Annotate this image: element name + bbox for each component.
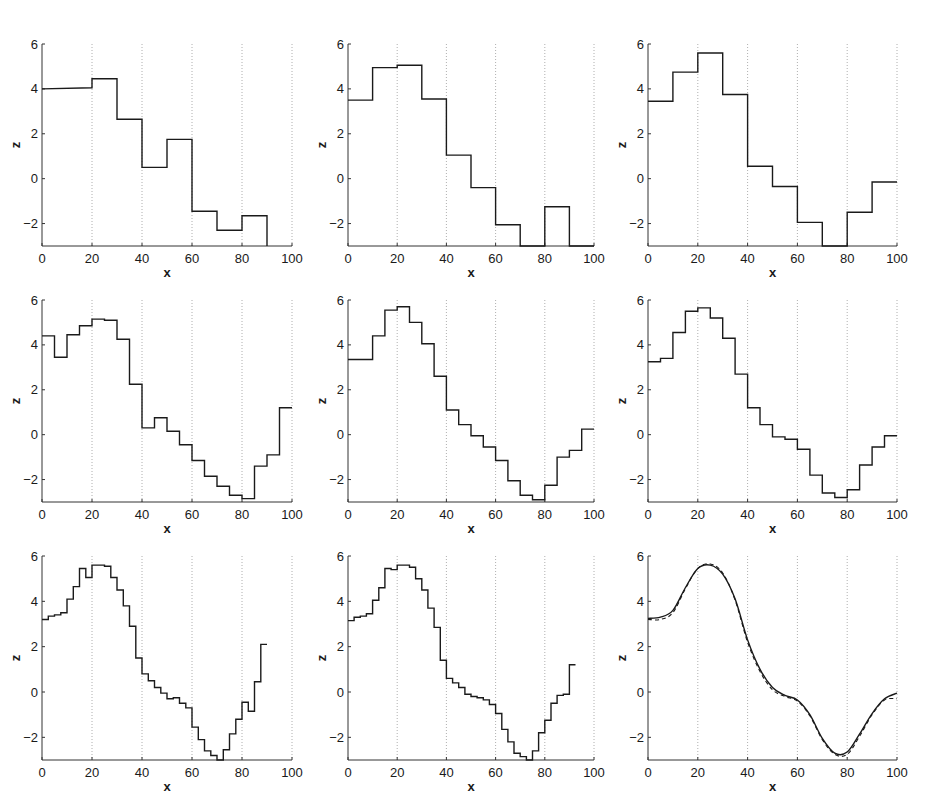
x-tick-label: 60 [488, 507, 502, 522]
chart-panel-7: 020406080100−20246xz [8, 549, 303, 795]
y-tick-label: 2 [337, 639, 344, 654]
x-axis-label: x [769, 779, 777, 794]
chart-panel-5: 020406080100−20246xz [314, 293, 605, 537]
y-axis-label: z [8, 397, 23, 404]
y-tick-label: 0 [337, 427, 344, 442]
series-line-approximation [348, 65, 594, 246]
y-tick-label: 6 [637, 549, 644, 564]
y-tick-label: 6 [31, 293, 38, 308]
y-tick-label: −2 [329, 730, 344, 745]
chart-panel-3: 020406080100−20246xz [614, 37, 908, 281]
x-axis-label: x [163, 265, 171, 280]
x-axis-label: x [163, 521, 171, 536]
chart-panel-6: 020406080100−20246xz [614, 293, 908, 537]
y-tick-label: 0 [637, 685, 644, 700]
x-tick-label: 100 [886, 507, 908, 522]
x-tick-label: 60 [790, 765, 804, 780]
x-tick-label: 40 [135, 251, 149, 266]
x-tick-label: 80 [235, 251, 249, 266]
series-line-approximation [348, 307, 594, 500]
x-tick-label: 80 [840, 507, 854, 522]
x-tick-label: 20 [691, 251, 705, 266]
y-tick-label: −2 [629, 730, 644, 745]
x-tick-label: 0 [344, 251, 351, 266]
x-tick-label: 40 [439, 765, 453, 780]
y-tick-label: 6 [31, 37, 38, 52]
series-line-true-function [648, 564, 897, 757]
x-tick-label: 40 [439, 251, 453, 266]
y-tick-label: −2 [629, 472, 644, 487]
y-tick-label: −2 [23, 730, 38, 745]
y-tick-label: 0 [337, 685, 344, 700]
series-line-approximation [648, 308, 897, 498]
y-axis-label: z [8, 654, 23, 661]
series-line-approximation [648, 565, 897, 755]
x-tick-label: 80 [538, 765, 552, 780]
x-tick-label: 20 [390, 251, 404, 266]
y-tick-label: 2 [637, 639, 644, 654]
y-tick-label: 0 [637, 171, 644, 186]
x-tick-label: 100 [583, 251, 605, 266]
chart-panel-2: 020406080100−20246xz [314, 37, 605, 281]
chart-panel-1: 020406080100−20246xz [8, 37, 303, 281]
chart-panel-4: 020406080100−20246xz [8, 293, 303, 537]
x-tick-label: 100 [583, 765, 605, 780]
y-tick-label: 2 [31, 382, 38, 397]
y-tick-label: −2 [23, 216, 38, 231]
x-tick-label: 60 [488, 765, 502, 780]
x-tick-label: 100 [281, 765, 303, 780]
x-tick-label: 0 [644, 507, 651, 522]
x-axis-label: x [769, 521, 777, 536]
y-axis-label: z [614, 141, 629, 148]
y-axis-label: z [614, 397, 629, 404]
x-tick-label: 0 [38, 765, 45, 780]
y-tick-label: 2 [637, 382, 644, 397]
x-tick-label: 80 [235, 507, 249, 522]
y-tick-label: 6 [337, 549, 344, 564]
y-tick-label: 4 [337, 81, 344, 96]
x-axis-label: x [769, 265, 777, 280]
x-tick-label: 40 [135, 507, 149, 522]
x-tick-label: 80 [538, 251, 552, 266]
series-line-approximation [348, 565, 576, 760]
x-tick-label: 60 [790, 507, 804, 522]
x-tick-label: 0 [344, 765, 351, 780]
x-tick-label: 100 [281, 251, 303, 266]
x-tick-label: 60 [185, 765, 199, 780]
y-tick-label: 4 [337, 337, 344, 352]
x-tick-label: 80 [840, 765, 854, 780]
x-tick-label: 100 [886, 765, 908, 780]
y-tick-label: 0 [31, 427, 38, 442]
y-tick-label: 2 [337, 126, 344, 141]
series-line-approximation [42, 79, 267, 246]
x-axis-label: x [467, 521, 475, 536]
y-tick-label: 4 [337, 594, 344, 609]
y-tick-label: −2 [329, 216, 344, 231]
x-tick-label: 20 [85, 765, 99, 780]
y-tick-label: 0 [31, 685, 38, 700]
series-line-approximation [648, 53, 897, 246]
y-tick-label: 4 [637, 594, 644, 609]
x-tick-label: 0 [644, 251, 651, 266]
y-tick-label: −2 [629, 216, 644, 231]
chart-panel-8: 020406080100−20246xz [314, 549, 605, 795]
x-tick-label: 40 [740, 251, 754, 266]
x-tick-label: 80 [538, 507, 552, 522]
y-tick-label: 2 [31, 126, 38, 141]
y-axis-label: z [314, 141, 329, 148]
y-tick-label: 4 [31, 81, 38, 96]
y-tick-label: −2 [329, 472, 344, 487]
x-tick-label: 60 [488, 251, 502, 266]
chart-panel-9: 020406080100−20246xz [614, 549, 908, 795]
y-tick-label: 4 [31, 337, 38, 352]
y-tick-label: 0 [31, 171, 38, 186]
y-tick-label: 4 [637, 337, 644, 352]
x-tick-label: 0 [344, 507, 351, 522]
x-tick-label: 40 [439, 507, 453, 522]
x-tick-label: 0 [644, 765, 651, 780]
x-tick-label: 20 [691, 765, 705, 780]
x-axis-label: x [467, 265, 475, 280]
x-tick-label: 0 [38, 251, 45, 266]
x-tick-label: 40 [740, 507, 754, 522]
x-tick-label: 20 [85, 251, 99, 266]
